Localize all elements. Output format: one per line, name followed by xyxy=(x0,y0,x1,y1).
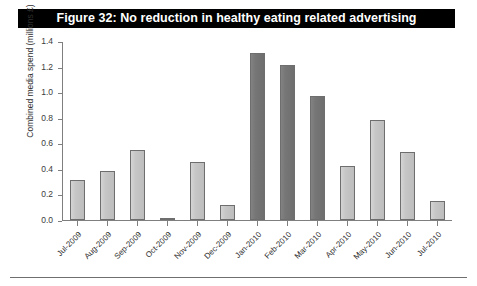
x-label-slot: Jul-2010 xyxy=(422,228,452,272)
bar-slot xyxy=(213,42,243,220)
bar[interactable] xyxy=(310,96,325,220)
bar-slot xyxy=(392,42,422,220)
y-tick-label: 1.0 xyxy=(41,87,53,97)
bar-series xyxy=(63,42,452,220)
bar[interactable] xyxy=(340,166,355,220)
x-tick xyxy=(212,221,242,227)
x-tick xyxy=(272,221,302,227)
bar-slot xyxy=(153,42,183,220)
x-tick xyxy=(152,221,182,227)
plot-area xyxy=(62,42,452,221)
bar[interactable] xyxy=(400,152,415,220)
y-tick-label: 0.0 xyxy=(41,215,53,225)
x-tick-mark xyxy=(257,221,258,226)
x-tick xyxy=(92,221,122,227)
bar-slot xyxy=(332,42,362,220)
x-tick xyxy=(122,221,152,227)
x-tick-mark xyxy=(407,221,408,226)
x-tick-mark xyxy=(77,221,78,226)
y-tick-label: 0.6 xyxy=(41,138,53,148)
y-tick-label: 0.4 xyxy=(41,164,53,174)
x-tick-mark xyxy=(287,221,288,226)
x-tick xyxy=(422,221,452,227)
footer-divider xyxy=(10,277,467,278)
y-tick-label: 0.2 xyxy=(41,189,53,199)
x-tick xyxy=(62,221,92,227)
x-tick-mark xyxy=(347,221,348,226)
bar-slot xyxy=(183,42,213,220)
bar-slot xyxy=(93,42,123,220)
figure-title: Figure 32: No reduction in healthy eatin… xyxy=(18,9,455,28)
bar-slot xyxy=(302,42,332,220)
bar[interactable] xyxy=(190,162,205,220)
x-tick xyxy=(362,221,392,227)
x-tick-mark xyxy=(377,221,378,226)
bar-slot xyxy=(422,42,452,220)
bar[interactable] xyxy=(130,150,145,220)
x-tick xyxy=(242,221,272,227)
y-axis: 1.41.21.00.80.60.40.20.0 xyxy=(0,42,62,221)
bar[interactable] xyxy=(250,53,265,220)
bar-slot xyxy=(362,42,392,220)
x-tick xyxy=(332,221,362,227)
x-tick-mark xyxy=(107,221,108,226)
bar[interactable] xyxy=(160,218,175,220)
x-tick xyxy=(182,221,212,227)
x-tick xyxy=(302,221,332,227)
bar-slot xyxy=(272,42,302,220)
x-tick-mark xyxy=(167,221,168,226)
x-tick xyxy=(392,221,422,227)
bar-slot xyxy=(123,42,153,220)
x-axis-labels: Jul-2009Aug-2009Sep-2009Oct-2009Nov-2009… xyxy=(62,228,452,272)
y-tick-label: 1.4 xyxy=(41,36,53,46)
x-tick-mark xyxy=(227,221,228,226)
x-tick-mark xyxy=(197,221,198,226)
y-tick-label: 0.8 xyxy=(41,113,53,123)
x-tick-label: Jul-2009 xyxy=(55,230,83,258)
bar[interactable] xyxy=(280,65,295,220)
bar[interactable] xyxy=(430,201,445,220)
figure-container: Figure 32: No reduction in healthy eatin… xyxy=(0,0,477,286)
bar[interactable] xyxy=(100,171,115,220)
x-axis-ticks xyxy=(62,221,452,227)
bar-slot xyxy=(63,42,93,220)
bar[interactable] xyxy=(70,180,85,220)
bar-slot xyxy=(243,42,273,220)
x-tick-mark xyxy=(437,221,438,226)
bar[interactable] xyxy=(220,205,235,220)
y-tick-label: 1.2 xyxy=(41,62,53,72)
x-tick-mark xyxy=(137,221,138,226)
x-tick-mark xyxy=(317,221,318,226)
bar[interactable] xyxy=(370,120,385,220)
